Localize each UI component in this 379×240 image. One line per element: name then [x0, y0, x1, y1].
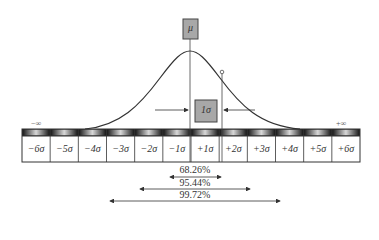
sigma-cell-7: +2σ	[219, 136, 247, 162]
sigma-cell-6: +1σ	[191, 136, 219, 162]
sigma-cell-3: −3σ	[107, 136, 135, 162]
inflection-point-marker	[220, 70, 224, 74]
sigma-cell-1: −5σ	[50, 136, 78, 162]
sigma-cell-9: +4σ	[276, 136, 304, 162]
sigma-cell-0: −6σ	[22, 136, 50, 162]
sigma-cell-5: −1σ	[163, 136, 191, 162]
sigma-cell-11: +6σ	[332, 136, 360, 162]
sigma-cell-4: −2σ	[135, 136, 163, 162]
sigma-cell-2: −4σ	[78, 136, 106, 162]
coverage-1-label: 68.26%	[165, 164, 225, 175]
coverage-3-label: 99.72%	[165, 189, 225, 200]
coverage-2-label: 95.44%	[165, 177, 225, 188]
normal-curve	[85, 51, 300, 129]
sigma-cell-10: +5σ	[304, 136, 332, 162]
sigma-box-label: 1σ	[195, 104, 217, 115]
mean-label: μ	[183, 22, 198, 33]
sigma-cell-8: +3σ	[247, 136, 275, 162]
pos-infinity-label: +∞	[336, 119, 346, 128]
neg-infinity-label: −∞	[31, 119, 41, 128]
